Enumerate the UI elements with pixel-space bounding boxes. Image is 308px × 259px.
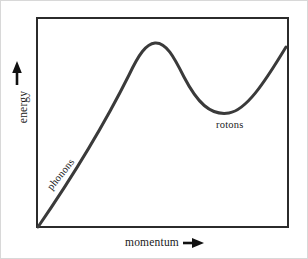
- x-axis-label: momentum: [125, 236, 179, 248]
- y-axis-label: energy: [17, 77, 29, 137]
- dispersion-relation-figure: energy momentum phonons rotons: [0, 0, 308, 259]
- rotons-annotation: rotons: [216, 119, 243, 130]
- arrow-right-icon: [183, 238, 204, 248]
- plot-frame: [37, 18, 288, 227]
- plot-canvas: [1, 1, 308, 259]
